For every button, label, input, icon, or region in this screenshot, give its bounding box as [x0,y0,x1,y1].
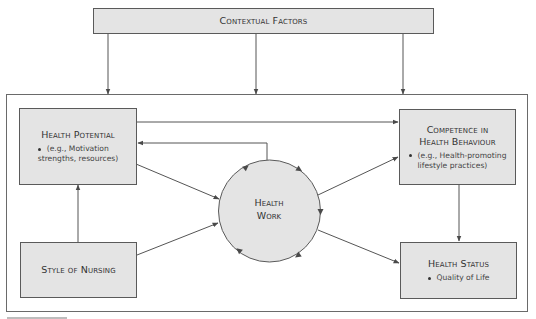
arrow-nursing-to-work [137,223,218,255]
health-work-label-line1: Health [255,197,284,208]
bullet-icon [38,148,41,151]
health-work-label: Health Work [229,196,309,222]
arrow-potential-to-work [136,164,219,199]
health-potential-box: Health Potential (e.g., Motivation stren… [19,108,137,185]
arrow-work-to-potential [138,143,267,160]
health-potential-title: Health Potential [41,129,115,141]
bullet-icon [409,154,412,157]
health-potential-example-line2: strengths, resources) [38,154,119,163]
health-work-label-line2: Work [257,210,281,221]
contextual-factors-box: Contextual Factors [93,8,434,34]
competence-bullet: (e.g., Health-promoting lifestyle practi… [409,151,507,171]
bullet-icon [428,277,431,280]
health-status-box: Health Status Quality of Life [400,242,517,299]
contextual-factors-title: Contextual Factors [220,15,308,27]
health-status-title: Health Status [428,258,489,270]
arrow-work-to-status [318,230,399,263]
competence-title-line2: Health Behaviour [419,136,495,148]
style-of-nursing-box: Style of Nursing [20,242,137,298]
health-potential-bullet: (e.g., Motivation strengths, resources) [38,144,119,164]
health-status-bullet: Quality of Life [428,273,490,283]
health-potential-example-line1: (e.g., Motivation [47,144,109,153]
competence-example-line1: (e.g., Health-promoting [418,151,507,160]
competence-example-line2: lifestyle practices) [418,161,488,170]
arrow-work-to-competence [318,157,398,195]
style-of-nursing-title: Style of Nursing [41,264,115,276]
health-work-diagram: Contextual Factors Health Potential (e.g… [0,0,536,319]
health-status-example: Quality of Life [437,273,490,283]
competence-box: Competence in Health Behaviour (e.g., He… [399,109,516,185]
competence-title-line1: Competence in [427,124,489,136]
